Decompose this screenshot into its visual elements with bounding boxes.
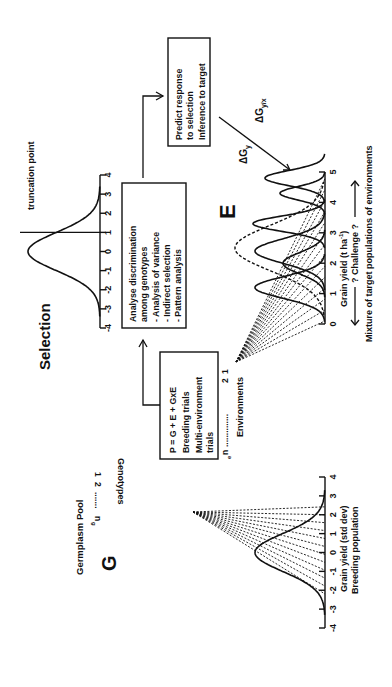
environment-index-n: n (220, 450, 230, 455)
germplasm-pool-title: Germplasm Pool (74, 500, 85, 576)
e-axis-label-close: ) (339, 231, 349, 234)
trials-multi-environment: Multi-environment (194, 377, 204, 453)
environment-dashed-line (236, 201, 325, 362)
genotype-index-n-sub: g (91, 522, 97, 526)
axis-tick-label: 0 (328, 550, 338, 555)
environment-yield-curve (265, 154, 325, 203)
environments-panel: 1 2 .............. n e Environments E 01… (215, 145, 374, 459)
e-axis-ticks: 012345 (319, 169, 338, 326)
selection-axis-ticks: -4-3-2-101234 (100, 172, 113, 332)
axis-tick-label: 0 (328, 321, 338, 326)
germplasm-panel: Germplasm Pool G Genotypes 1 2 ....... n… (74, 458, 360, 632)
genotype-dashed-line (193, 512, 325, 562)
environment-dashed-line (236, 277, 325, 362)
environments-label: Environments (235, 377, 245, 437)
environment-dashed-line (236, 288, 325, 362)
environment-dashed-lines (236, 179, 325, 362)
selection-panel: Selection truncation point -4-3-2-101234 (20, 142, 113, 371)
mixture-label: Mixture of target populations of environ… (364, 145, 374, 342)
axis-tick-label: 5 (328, 169, 338, 174)
axis-tick-label: 3 (103, 192, 113, 197)
predict-box: Predict response to selection Inference … (168, 38, 210, 146)
predict-to-e-arrow (219, 117, 290, 170)
genotype-dashed-lines (193, 507, 325, 594)
axis-tick-label: -4 (103, 324, 113, 332)
germplasm-letter-g: G (98, 555, 120, 571)
trials-to-analysis-arrow (143, 340, 160, 405)
environment-index-2: 2 (220, 378, 230, 383)
genotype-indices: 1 2 ....... n g (91, 472, 103, 526)
axis-tick-label: 1 (328, 291, 338, 296)
axis-tick-label: -1 (103, 267, 113, 275)
environment-dashed-line (236, 321, 325, 362)
truncation-point-label: truncation point (26, 142, 36, 211)
delta-gyx-label: ΔGy/x (254, 98, 268, 123)
diagram-rotated-stage: Germplasm Pool G Genotypes 1 2 ....... n… (0, 0, 392, 687)
genotypes-label-group: Genotypes (116, 458, 126, 505)
axis-tick-label: 4 (328, 474, 338, 479)
axis-tick-label: -4 (328, 624, 338, 632)
analysis-line-1: Analyse discrimination (128, 226, 138, 322)
genotype-index-2: 2 (93, 482, 103, 487)
delta-gy-symbol: ΔG (238, 149, 249, 164)
e-axis-label-sup: -1 (338, 233, 344, 239)
challenge-label: ? Challenge ? (350, 224, 360, 283)
predict-line-3: Inference to target (197, 63, 207, 140)
axis-tick-label: -1 (328, 567, 338, 575)
genotype-index-n: n (93, 516, 103, 521)
genotype-index-1: 1 (93, 472, 103, 477)
selection-title: Selection (36, 303, 53, 370)
axis-tick-label: 2 (328, 512, 338, 517)
axis-tick-label: 1 (103, 230, 113, 235)
axis-tick-label: 4 (328, 200, 338, 205)
axis-tick-label: -2 (328, 586, 338, 594)
selection-curve (28, 187, 100, 317)
environment-dashed-line (236, 179, 325, 362)
analysis-to-predict-arrow (143, 96, 163, 178)
analysis-line-3: - Analysis of variance (151, 232, 161, 322)
analysis-line-4: - Indirect selection (162, 244, 172, 322)
analysis-box: Analyse discrimination among genotypes -… (122, 183, 186, 328)
g-axis-ticks: -4-3-2-101234 (319, 474, 338, 632)
genotype-dashed-line (193, 507, 325, 512)
axis-tick-label: 2 (328, 261, 338, 266)
g-axis-label: Grain yield (std dev) (339, 505, 349, 592)
trials-breeding: Breeding trials (181, 391, 191, 453)
axis-tick-label: 1 (328, 531, 338, 536)
environment-letter-e: E (215, 204, 240, 219)
genotype-dashed-line (193, 512, 325, 554)
delta-gyx-symbol: ΔG (254, 108, 265, 123)
analysis-line-2: among genotypes (139, 247, 149, 322)
analysis-line-5: - Pattern analysis (173, 249, 183, 322)
environment-dots: .............. (220, 414, 230, 447)
axis-tick-label: -2 (103, 286, 113, 294)
axis-tick-label: -3 (328, 605, 338, 613)
environment-yield-curves (253, 154, 325, 322)
environment-dashed-line (236, 266, 325, 362)
environment-index-n-sub: e (226, 455, 232, 459)
environment-index-1: 1 (220, 369, 230, 374)
genotype-dots: ....... (93, 492, 103, 509)
delta-gy-sub: y (244, 145, 252, 149)
g-axis-sublabel: Breeding population (350, 507, 360, 595)
axis-tick-label: 4 (103, 172, 113, 177)
trials-formula: P = G + E + GxE (168, 387, 178, 453)
predict-line-2: to selection (185, 91, 195, 140)
axis-tick-label: 0 (103, 249, 113, 254)
e-axis-label-text: Grain yield (t ha (339, 238, 349, 307)
axis-tick-label: -3 (103, 305, 113, 313)
delta-gy-label: ΔGy (238, 145, 252, 164)
predict-line-1: Predict response (174, 69, 184, 140)
axis-tick-label: 3 (328, 493, 338, 498)
axis-tick-label: 3 (328, 230, 338, 235)
trials-trials: trials (205, 432, 215, 453)
delta-gyx-sub: y/x (260, 98, 268, 108)
genotypes-label: Genotypes (116, 458, 126, 505)
axis-tick-label: 2 (103, 211, 113, 216)
trials-box: P = G + E + GxE Breeding trials Multi-en… (160, 352, 218, 459)
genotype-dashed-line (193, 512, 325, 539)
breeding-diagram: Germplasm Pool G Genotypes 1 2 ....... n… (0, 0, 392, 687)
environment-indices: 1 2 (220, 369, 230, 383)
e-axis-label: Grain yield (t ha-1) (338, 231, 349, 307)
